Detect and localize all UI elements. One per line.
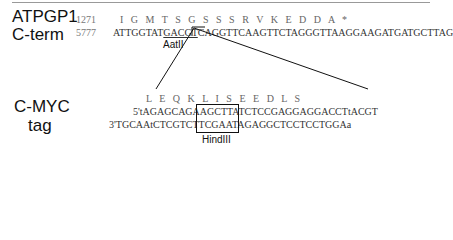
bottom-aa-sequence: L E Q K L I S E E D L S — [146, 94, 300, 104]
tag-sublabel: tag — [28, 117, 52, 134]
tag-label: C-MYC — [14, 98, 70, 115]
hindiii-site-box — [196, 104, 239, 133]
hindiii-label: HindIII — [202, 134, 231, 145]
strand-top: 5'tAGAGCAGAAGCTTATCTCCGAGGAGGACCTtACGT — [133, 107, 378, 117]
